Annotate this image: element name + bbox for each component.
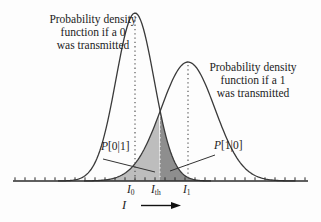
error-region-p10 xyxy=(160,110,212,181)
left-curve-label: Probability density function if a 0 was … xyxy=(32,13,154,52)
left-curve-label-line3: was transmitted xyxy=(32,39,154,52)
left-curve-label-line1: Probability density xyxy=(32,13,154,26)
axis-label-ith-sub: th xyxy=(155,188,161,197)
right-curve-label-line3: was transmitted xyxy=(198,87,308,100)
axis-label-ith: Ith xyxy=(151,183,161,195)
axis-label-i1: I1 xyxy=(183,183,191,195)
right-curve-label: Probability density function if a 1 was … xyxy=(198,61,308,100)
figure-container: Probability density function if a 0 was … xyxy=(0,0,321,222)
error-prob-p10-bracket: [1|0] xyxy=(221,139,242,151)
x-direction-arrow-head-icon xyxy=(171,202,181,209)
error-prob-p01-symbol: P xyxy=(101,140,108,152)
axis-label-i0-sub: 0 xyxy=(131,188,135,197)
x-axis-symbol: I xyxy=(122,198,126,213)
error-prob-p10-symbol: P xyxy=(214,139,221,151)
error-prob-label-p10: P[1|0] xyxy=(214,139,243,151)
right-curve-label-line1: Probability density xyxy=(198,61,308,74)
error-prob-p01-bracket: [0|1] xyxy=(108,140,129,152)
p10-leader-line xyxy=(170,155,215,171)
right-curve-label-line2: function if a 1 xyxy=(198,74,308,87)
left-curve-label-line2: function if a 0 xyxy=(32,26,154,39)
axis-label-i1-sub: 1 xyxy=(187,188,191,197)
error-prob-label-p01: P[0|1] xyxy=(101,140,130,152)
axis-label-i0: I0 xyxy=(127,183,135,195)
